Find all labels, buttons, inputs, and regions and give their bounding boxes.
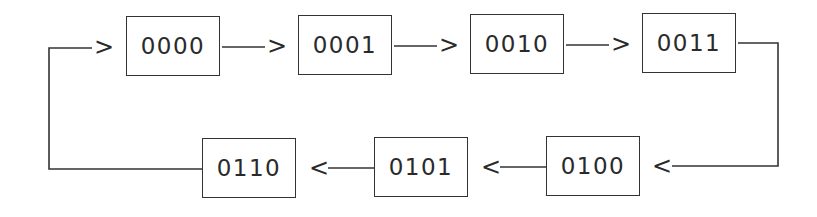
arrow-left-icon: < bbox=[481, 155, 501, 179]
arrow-right-icon: > bbox=[611, 32, 631, 56]
state-box-0011: 0011 bbox=[642, 13, 736, 73]
arrow-right-icon: > bbox=[267, 34, 287, 58]
arrow-right-icon: > bbox=[439, 33, 459, 57]
arrow-left-icon: < bbox=[652, 154, 672, 178]
arrow-right-icon: > bbox=[94, 35, 114, 59]
state-cycle-diagram: > > > > < < < 0000 0001 0010 0011 0100 0… bbox=[0, 0, 817, 217]
state-box-0001: 0001 bbox=[298, 15, 392, 75]
state-box-0000: 0000 bbox=[126, 16, 220, 76]
state-box-0100: 0100 bbox=[546, 136, 640, 196]
arrow-left-icon: < bbox=[309, 156, 329, 180]
state-box-0110: 0110 bbox=[202, 138, 296, 198]
state-box-0101: 0101 bbox=[374, 137, 468, 197]
state-box-0010: 0010 bbox=[470, 14, 564, 74]
